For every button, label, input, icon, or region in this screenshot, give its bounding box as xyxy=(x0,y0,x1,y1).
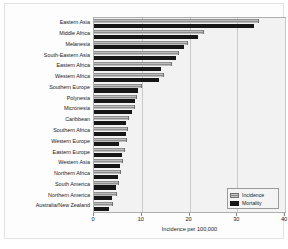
plot-area xyxy=(93,17,286,213)
bar-incidence xyxy=(94,181,119,185)
bar-mortality xyxy=(94,78,159,82)
bar-incidence xyxy=(94,148,125,152)
axis-tick-label: 30 xyxy=(233,216,239,222)
bar-incidence xyxy=(94,116,129,120)
bar-group xyxy=(94,115,285,126)
bar-series-group xyxy=(94,18,285,212)
category-label: Eastern Asia xyxy=(60,19,90,25)
bar-mortality xyxy=(94,99,135,103)
bar-mortality xyxy=(94,153,122,157)
chart-figure: Eastern AsiaMiddle AfricaMelanesiaSouth-… xyxy=(0,0,288,249)
bar-group xyxy=(94,158,285,169)
category-label: Southern Europe xyxy=(49,84,90,90)
legend-label-mortality: Mortality xyxy=(242,200,262,206)
bar-group xyxy=(94,40,285,51)
bar-group xyxy=(94,104,285,115)
bar-incidence xyxy=(94,192,117,196)
bar-group xyxy=(94,72,285,83)
axis-tick-label: 0 xyxy=(91,216,94,222)
bar-mortality xyxy=(94,185,116,189)
axis-tick-label: 40 xyxy=(281,216,287,222)
bar-incidence xyxy=(94,30,204,34)
bar-mortality xyxy=(94,67,161,71)
bar-mortality xyxy=(94,175,118,179)
category-label: Polynesia xyxy=(67,95,90,101)
legend-item-mortality: Mortality xyxy=(230,199,276,207)
bar-mortality xyxy=(94,56,176,60)
category-label: Australia/New Zealand xyxy=(36,202,90,208)
category-label: Micronesia xyxy=(64,105,90,111)
bar-group xyxy=(94,61,285,72)
bar-incidence xyxy=(94,95,137,99)
legend-swatch-incidence xyxy=(230,193,239,198)
bar-mortality xyxy=(94,196,112,200)
bar-incidence xyxy=(94,105,135,109)
category-label: Eastern Africa xyxy=(56,62,90,68)
bar-incidence xyxy=(94,73,164,77)
bar-mortality xyxy=(94,132,126,136)
category-label: Southern Africa xyxy=(53,127,90,133)
bar-mortality xyxy=(94,207,109,211)
category-label: Northern Africa xyxy=(54,170,90,176)
axis-tick-label: 10 xyxy=(138,216,144,222)
category-axis-labels: Eastern AsiaMiddle AfricaMelanesiaSouth-… xyxy=(5,17,90,213)
category-label: Caribbean xyxy=(65,116,90,122)
bar-incidence xyxy=(94,84,142,88)
bar-mortality xyxy=(94,121,126,125)
category-label: Western Asia xyxy=(58,159,90,165)
category-label: Middle Africa xyxy=(59,30,90,36)
bar-group xyxy=(94,83,285,94)
bar-incidence xyxy=(94,127,128,131)
bar-mortality xyxy=(94,45,184,49)
category-label: Western Africa xyxy=(55,73,90,79)
bar-group xyxy=(94,137,285,148)
bar-mortality xyxy=(94,142,119,146)
legend-item-incidence: Incidence xyxy=(230,191,276,199)
bar-incidence xyxy=(94,159,123,163)
category-label: Melanesia xyxy=(65,41,90,47)
bar-mortality xyxy=(94,164,120,168)
bar-incidence xyxy=(94,41,188,45)
gridline xyxy=(285,18,286,212)
legend-swatch-mortality xyxy=(230,201,239,206)
category-label: South-Eastern Asia xyxy=(44,52,90,58)
bar-mortality xyxy=(94,88,138,92)
axis-tick-label: 20 xyxy=(185,216,191,222)
chart-legend: Incidence Mortality xyxy=(227,188,279,209)
category-label: Northern America xyxy=(48,192,90,198)
category-label: Eastern Europe xyxy=(53,149,90,155)
bar-incidence xyxy=(94,19,259,23)
bar-group xyxy=(94,126,285,137)
figure-frame: Eastern AsiaMiddle AfricaMelanesiaSouth-… xyxy=(4,3,284,239)
bar-mortality xyxy=(94,110,132,114)
bar-incidence xyxy=(94,51,179,55)
bar-incidence xyxy=(94,62,172,66)
value-axis: 010203040 xyxy=(93,213,286,227)
bar-mortality xyxy=(94,35,198,39)
bar-incidence xyxy=(94,202,113,206)
bar-incidence xyxy=(94,138,127,142)
bar-group xyxy=(94,169,285,180)
bar-group xyxy=(94,18,285,29)
bar-mortality xyxy=(94,24,254,28)
category-label: South America xyxy=(55,181,90,187)
bar-group xyxy=(94,29,285,40)
bar-incidence xyxy=(94,170,121,174)
bar-group xyxy=(94,50,285,61)
category-label: Western Europe xyxy=(51,138,90,144)
bar-group xyxy=(94,147,285,158)
bar-group xyxy=(94,93,285,104)
legend-label-incidence: Incidence xyxy=(242,192,264,198)
x-axis-title: Incidence per 100,000 xyxy=(93,226,286,232)
